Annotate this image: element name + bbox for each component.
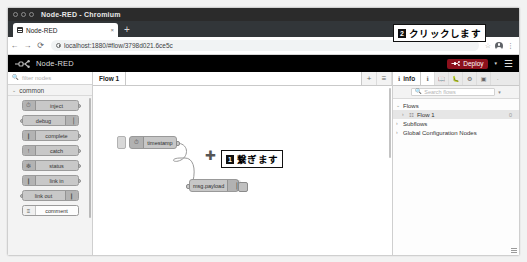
reload-icon[interactable]: ⟳ (34, 42, 47, 50)
profile-avatar-icon[interactable] (495, 42, 503, 50)
chevron-right-icon: › (402, 112, 406, 117)
inject-icon: ⏱ (23, 101, 36, 110)
deploy-label: Deploy (463, 60, 483, 67)
flow-tabbar: Flow 1 + ≡ (93, 72, 392, 86)
node-red-brand-label: Node-RED (36, 59, 74, 68)
bookmark-star-icon[interactable]: ☆ (485, 42, 491, 49)
forward-icon[interactable]: → (21, 42, 34, 50)
deploy-dropdown-icon[interactable]: ▾ (495, 61, 498, 66)
flow-node-inject[interactable]: ⏱ timestamp (129, 136, 177, 149)
canvas-scrollbar[interactable] (389, 88, 392, 158)
palette-filter-placeholder: filter nodes (22, 75, 51, 81)
close-icon[interactable]: × (110, 27, 114, 33)
palette-category-common[interactable]: ⌄ common (8, 85, 92, 96)
palette-node-label: link in (36, 178, 78, 184)
info-icon[interactable]: ℹ (421, 72, 435, 85)
flow-tab-flow-1[interactable]: Flow 1 (93, 72, 126, 85)
tree-item-subflows[interactable]: › Subflows (393, 119, 519, 128)
output-port[interactable] (78, 104, 81, 108)
window-close-button[interactable] (29, 12, 34, 17)
search-flows-input[interactable]: 🔍 Search flows (411, 88, 495, 96)
deploy-button[interactable]: Deploy (447, 59, 487, 69)
sidebar-flow-tree: ⌄ Flows › ☷ Flow 1 0 › Subflows › (393, 99, 519, 255)
palette-node-status[interactable]: ❇ status (22, 160, 79, 171)
chevron-down-icon[interactable]: ▾ (498, 90, 501, 95)
palette-category-label: common (19, 87, 44, 94)
window-controls[interactable] (13, 12, 34, 17)
palette-node-label: comment (36, 208, 78, 214)
tree-item-flows[interactable]: ⌄ Flows (393, 101, 519, 110)
tree-item-flow-1[interactable]: › ☷ Flow 1 0 (393, 110, 519, 119)
node-red-favicon-icon (17, 27, 23, 33)
search-icon: 🔍 (12, 75, 19, 81)
output-port[interactable] (78, 164, 81, 168)
add-flow-button[interactable]: + (362, 72, 377, 85)
window-minimize-button[interactable] (13, 12, 18, 17)
input-port[interactable] (186, 184, 190, 189)
palette-scrollbar[interactable] (89, 98, 92, 218)
debug-enable-toggle[interactable] (238, 182, 248, 192)
chevron-down-icon: ⌄ (396, 103, 400, 108)
palette-node-label: catch (36, 148, 78, 154)
palette-node-link-in[interactable]: ❙ link in (22, 175, 79, 186)
complete-icon: ❙ (23, 131, 36, 140)
input-port[interactable] (20, 119, 23, 123)
output-port[interactable] (78, 134, 81, 138)
deploy-icon (451, 60, 460, 67)
annotation-number: 1 (226, 155, 234, 164)
palette-node-inject[interactable]: ⏱ inject (22, 100, 79, 111)
hamburger-menu-icon[interactable]: ☰ (504, 59, 513, 69)
debug-icon: ▕ (65, 116, 78, 125)
palette-node-list: ⏱ inject ▕ debug ❙ complete (8, 96, 92, 255)
flow-editor: Flow 1 + ≡ ⏱ timestamp (93, 72, 392, 255)
tree-item-global-config-nodes[interactable]: › Global Configuration Nodes (393, 128, 519, 137)
flow-tab-label: Flow 1 (99, 75, 119, 82)
crosshair-cursor-icon: ✚ (205, 149, 216, 162)
palette-node-label: complete (36, 133, 78, 139)
chevron-down-icon: ⌄ (12, 88, 16, 93)
input-port[interactable] (20, 194, 23, 198)
palette-filter-input[interactable]: 🔍 filter nodes (8, 72, 92, 85)
dashboard-icon[interactable]: ▣ (477, 72, 491, 85)
more-options-icon[interactable]: · (491, 72, 504, 85)
palette-node-label: status (36, 163, 78, 169)
info-icon: ℹ (398, 75, 400, 82)
link-in-icon: ❙ (23, 176, 36, 185)
flow-node-debug[interactable]: ▕ msg.payload (189, 179, 239, 192)
comment-icon: ≡ (23, 206, 36, 215)
back-icon[interactable]: ← (8, 42, 21, 50)
palette-node-debug[interactable]: ▕ debug (22, 115, 79, 126)
new-tab-button[interactable]: + (124, 25, 130, 35)
sidebar-tab-info[interactable]: ℹ info (393, 72, 421, 85)
node-red-logo-icon (14, 59, 32, 69)
help-book-icon[interactable]: 📖 (435, 72, 449, 85)
settings-gear-icon[interactable]: ⚙ (463, 72, 477, 85)
palette-node-complete[interactable]: ❙ complete (22, 130, 79, 141)
browser-menu-icon[interactable]: ⋮ (507, 42, 514, 49)
tree-item-label: Global Configuration Nodes (403, 130, 516, 136)
flow-canvas[interactable]: ⏱ timestamp ▕ msg.payload ✚ (93, 86, 392, 255)
output-port[interactable] (176, 141, 180, 146)
window-resize-grip[interactable] (511, 247, 517, 253)
browser-tab[interactable]: Node-RED × (13, 23, 118, 37)
debug-bug-icon[interactable]: 🐛 (449, 72, 463, 85)
palette-node-label: inject (36, 103, 78, 109)
tree-item-label: Flows (403, 103, 516, 109)
browser-tab-title: Node-RED (26, 27, 107, 34)
search-flows-placeholder: Search flows (424, 89, 456, 95)
palette-node-comment[interactable]: ≡ comment (22, 205, 79, 216)
palette-node-link-out[interactable]: ❙ link out (22, 190, 79, 201)
window-maximize-button[interactable] (21, 12, 26, 17)
sidebar-tab-label: info (403, 75, 415, 82)
output-port[interactable] (78, 149, 81, 153)
palette-node-label: debug (23, 118, 65, 124)
window-titlebar: Node-RED - Chromium (8, 8, 519, 21)
flow-list-menu-button[interactable]: ≡ (377, 72, 392, 85)
info-circle-icon[interactable] (56, 43, 61, 48)
node-red-header-actions: Deploy ▾ ☰ (447, 59, 513, 69)
node-palette: 🔍 filter nodes ⌄ common ⏱ inject ▕ de (8, 72, 93, 255)
tree-item-count: 0 (509, 112, 516, 118)
output-port[interactable] (78, 179, 81, 183)
drag-ghost-node (117, 136, 126, 149)
palette-node-catch[interactable]: ! catch (22, 145, 79, 156)
